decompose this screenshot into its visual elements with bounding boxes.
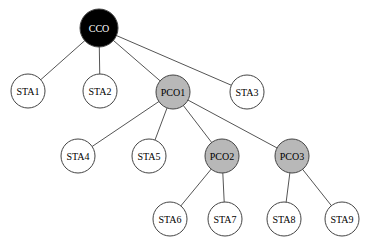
network-tree-diagram: CCOSTA1STA2PCO1STA3STA4STA5PCO2PCO3STA6S… bbox=[0, 0, 369, 243]
node-label: STA7 bbox=[213, 214, 236, 225]
node-pco1: PCO1 bbox=[156, 75, 190, 109]
node-label: STA8 bbox=[272, 214, 295, 225]
edges bbox=[28, 28, 342, 219]
nodes: CCOSTA1STA2PCO1STA3STA4STA5PCO2PCO3STA6S… bbox=[11, 9, 359, 236]
node-sta9: STA9 bbox=[325, 202, 359, 236]
node-pco2: PCO2 bbox=[205, 139, 239, 173]
node-sta6: STA6 bbox=[153, 202, 187, 236]
node-label: STA5 bbox=[137, 151, 160, 162]
node-sta8: STA8 bbox=[267, 202, 301, 236]
node-sta1: STA1 bbox=[11, 74, 45, 108]
node-label: STA2 bbox=[88, 86, 111, 97]
node-label: PCO1 bbox=[161, 87, 185, 98]
node-cco: CCO bbox=[80, 9, 118, 47]
node-label: PCO2 bbox=[210, 151, 234, 162]
node-label: PCO3 bbox=[280, 151, 304, 162]
node-label: CCO bbox=[89, 23, 110, 34]
node-label: STA6 bbox=[158, 214, 181, 225]
node-pco3: PCO3 bbox=[275, 139, 309, 173]
node-label: STA9 bbox=[330, 214, 353, 225]
node-label: STA1 bbox=[16, 86, 39, 97]
node-sta5: STA5 bbox=[132, 139, 166, 173]
node-label: STA3 bbox=[235, 87, 258, 98]
node-sta7: STA7 bbox=[208, 202, 242, 236]
node-sta2: STA2 bbox=[83, 74, 117, 108]
node-sta4: STA4 bbox=[61, 139, 95, 173]
node-sta3: STA3 bbox=[230, 75, 264, 109]
node-label: STA4 bbox=[66, 151, 89, 162]
